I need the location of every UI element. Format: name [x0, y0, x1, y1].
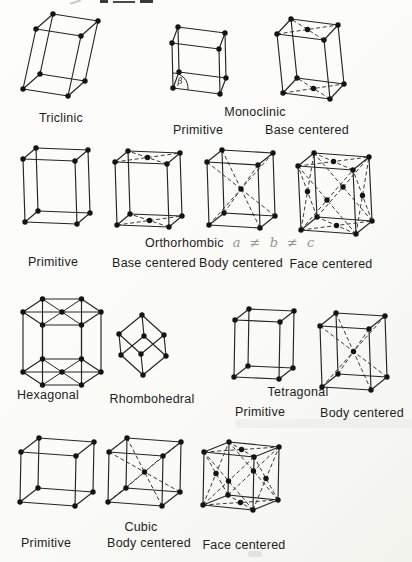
cell-orthorhombic-body-centered	[204, 147, 277, 230]
cell-hexagonal	[20, 296, 103, 387]
label-monoclinic-base-centered: Base centered	[265, 123, 349, 137]
label-triclinic: Triclinic	[39, 111, 83, 125]
orthorhombic-lattice-parameter-annotation: a ≠ b ≠ c	[233, 235, 317, 250]
cell-tetragonal-body-centered	[317, 310, 389, 392]
label-cubic-body-centered: Body centered	[107, 536, 191, 550]
label-tetragonal-title: Tetragonal	[268, 385, 329, 399]
label-tetragonal-body-centered: Body centered	[320, 406, 404, 420]
cell-rhombohedral	[116, 312, 168, 377]
label-rhombohedral: Rhombohedral	[110, 392, 195, 406]
beta-angle-label: β	[177, 76, 183, 86]
scanned-figure-page: β Triclinic Monoclinic Primitive Base ce…	[0, 0, 412, 562]
bravais-lattice-figure: β	[0, 0, 412, 562]
label-tetragonal-primitive: Primitive	[235, 405, 285, 419]
label-cubic-title: Cubic	[124, 520, 157, 534]
cell-cubic-face-centered	[200, 439, 281, 512]
label-cubic-primitive: Primitive	[21, 536, 71, 550]
orthorhombic-title-text: Orthorhombic	[145, 236, 224, 250]
label-orthorhombic-primitive: Primitive	[28, 255, 78, 269]
label-monoclinic-primitive: Primitive	[173, 123, 223, 137]
label-monoclinic-title: Monoclinic	[224, 105, 286, 119]
label-cubic-face-centered: Face centered	[202, 538, 285, 552]
cell-tetragonal-primitive	[231, 306, 296, 381]
label-orthorhombic-base-centered: Base centered	[112, 256, 196, 270]
cell-monoclinic-base-centered	[274, 16, 346, 101]
label-orthorhombic-title: Orthorhombica ≠ b ≠ c	[145, 235, 317, 250]
label-orthorhombic-face-centered: Face centered	[289, 257, 372, 271]
label-orthorhombic-body-centered: Body centered	[199, 256, 283, 270]
cell-triclinic	[20, 11, 100, 98]
cell-monoclinic-primitive: β	[169, 24, 228, 96]
cell-cubic-primitive	[17, 435, 96, 508]
cell-orthorhombic-face-centered	[295, 150, 374, 236]
label-hexagonal: Hexagonal	[17, 388, 79, 402]
cell-cubic-body-centered	[105, 435, 183, 508]
cell-orthorhombic-primitive	[20, 145, 92, 226]
cell-orthorhombic-base-centered	[112, 148, 184, 229]
